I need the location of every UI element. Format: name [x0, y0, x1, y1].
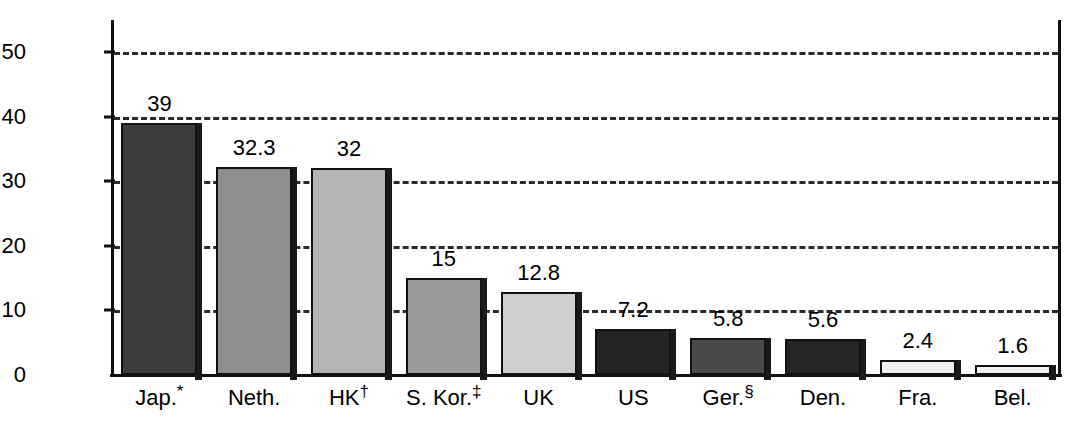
plot-area	[112, 20, 1060, 375]
y-tick-label-10: 10	[0, 297, 26, 323]
x-tick-label: UK	[487, 385, 591, 411]
bar-hk[interactable]	[311, 168, 387, 375]
bar-uk[interactable]	[501, 292, 577, 375]
bar-value-label: 39	[121, 91, 197, 117]
bar-jap[interactable]	[121, 123, 197, 375]
bar-value-label: 15	[406, 246, 482, 272]
y-tick-label-0: 0	[0, 362, 26, 388]
x-tick-label-text: Den.	[800, 385, 846, 410]
x-tick-footnote-marker: *	[177, 381, 184, 401]
y-tick-label-30: 30	[0, 168, 26, 194]
x-tick-label: HK†	[297, 385, 401, 411]
axis-spine-right	[1058, 20, 1061, 375]
x-tick-label: Bel.	[961, 385, 1065, 411]
x-tick-label-text: Jap.	[135, 385, 177, 410]
x-tick-label: Den.	[771, 385, 875, 411]
x-tick-label: US	[581, 385, 685, 411]
bar-value-label: 1.6	[975, 333, 1051, 359]
bar-value-label: 32.3	[216, 135, 292, 161]
gridline-40	[114, 117, 1058, 120]
y-tick-label-50: 50	[0, 39, 26, 65]
x-tick-label-text: US	[618, 385, 649, 410]
x-tick-footnote-marker: ‡	[472, 381, 482, 401]
bar-chart-figure: Volume of sand extracted (106 m3) 010203…	[0, 0, 1092, 437]
x-tick-label-text: Ger.	[703, 385, 745, 410]
y-tick-label-40: 40	[0, 104, 26, 130]
x-tick-label: Fra.	[866, 385, 970, 411]
x-tick-footnote-marker: †	[360, 381, 370, 401]
bar-skor[interactable]	[406, 278, 482, 375]
bar-value-label: 5.6	[785, 307, 861, 333]
bar-value-label: 12.8	[501, 260, 577, 286]
y-tick-label-20: 20	[0, 233, 26, 259]
x-tick-label-text: Neth.	[228, 385, 281, 410]
x-tick-label: S. Kor.‡	[392, 385, 496, 411]
x-tick-label-text: Fra.	[898, 385, 937, 410]
bar-value-label: 7.2	[595, 297, 671, 323]
bar-us[interactable]	[595, 329, 671, 375]
bar-den[interactable]	[785, 339, 861, 375]
bar-neth[interactable]	[216, 167, 292, 375]
x-tick-label-text: Bel.	[994, 385, 1032, 410]
bar-value-label: 2.4	[880, 328, 956, 354]
gridline-50	[114, 52, 1058, 55]
x-tick-label: Neth.	[202, 385, 306, 411]
bar-fra[interactable]	[880, 360, 956, 375]
x-tick-footnote-marker: §	[744, 381, 754, 401]
bar-ger[interactable]	[690, 338, 766, 375]
x-tick-label-text: HK	[329, 385, 360, 410]
bar-value-label: 32	[311, 136, 387, 162]
x-tick-label-text: S. Kor.	[406, 385, 472, 410]
axis-spine-left	[111, 20, 114, 375]
x-tick-label-text: UK	[523, 385, 554, 410]
x-tick-label: Jap.*	[107, 385, 211, 411]
x-tick-label: Ger.§	[676, 385, 780, 411]
bar-bel[interactable]	[975, 365, 1051, 375]
bar-value-label: 5.8	[690, 306, 766, 332]
